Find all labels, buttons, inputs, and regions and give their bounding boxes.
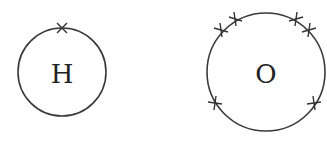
electron-shell-diagram: H O (0, 0, 327, 145)
oxygen-symbol: O (255, 59, 276, 89)
hydrogen-atom: H (18, 23, 106, 116)
oxygen-atom: O (207, 12, 325, 131)
electron-cross-icon (214, 23, 228, 37)
hydrogen-symbol: H (51, 59, 74, 89)
electron-cross-icon (302, 23, 316, 37)
